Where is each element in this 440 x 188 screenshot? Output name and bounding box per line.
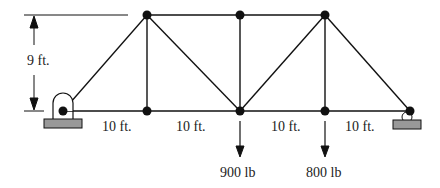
load-arrow-800 [321, 121, 329, 157]
joint-bottom-4 [321, 107, 330, 116]
load-label-800: 800 lb [306, 165, 341, 180]
load-arrow-900 [236, 121, 244, 157]
roller-support-right [393, 112, 421, 129]
panel-label-1: 10 ft. [102, 119, 132, 134]
joint-bottom-3 [236, 107, 245, 116]
joint-top-3 [321, 11, 330, 20]
joint-bottom-1 [59, 107, 68, 116]
joint-bottom-2 [143, 107, 152, 116]
joint-top-1 [143, 11, 152, 20]
truss-joints [59, 11, 415, 116]
joint-bottom-5 [406, 107, 415, 116]
joint-top-2 [236, 11, 245, 20]
truss-members [63, 15, 410, 111]
panel-label-2: 10 ft. [176, 119, 206, 134]
truss-diagram: 9 ft. 10 ft. [0, 0, 440, 188]
height-label: 9 ft. [27, 53, 50, 68]
load-label-900: 900 lb [220, 165, 255, 180]
panel-label-3: 10 ft. [271, 119, 301, 134]
panel-label-4: 10 ft. [345, 119, 375, 134]
